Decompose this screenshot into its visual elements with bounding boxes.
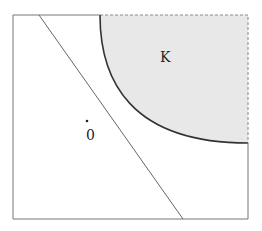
region-k-fill: [100, 15, 248, 143]
origin-dot: [86, 120, 89, 123]
diagram-canvas: K 0: [0, 0, 262, 231]
region-k-label: K: [160, 49, 171, 65]
origin-label: 0: [86, 127, 95, 143]
